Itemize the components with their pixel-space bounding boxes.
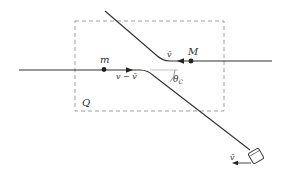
label-m: m <box>100 54 109 65</box>
label-observer-vbar: v̄ <box>230 153 235 162</box>
label-vbar-M: v̄ <box>167 50 172 59</box>
label-region-q: Q <box>82 97 90 108</box>
particle-M-dot <box>189 59 194 64</box>
region-q-box <box>75 21 224 111</box>
label-theta: θC <box>173 74 183 85</box>
collision-diagram: m M v̄ v − v̄ θC Q v̄ <box>0 0 285 182</box>
label-M: M <box>187 46 199 57</box>
trajectory-m <box>19 70 250 150</box>
arrow-left-icon <box>177 58 184 63</box>
label-v-minus-vbar: v − v̄ <box>116 72 137 81</box>
particle-m-dot <box>102 67 107 72</box>
observer-detector <box>248 148 264 164</box>
